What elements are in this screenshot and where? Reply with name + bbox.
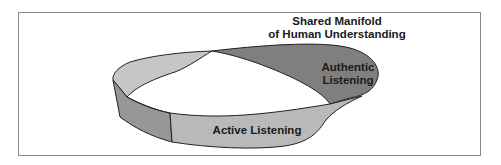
authentic-label-line-1: Authentic bbox=[316, 61, 380, 74]
authentic-label-line-2: Listening bbox=[316, 74, 380, 87]
back-band-left bbox=[113, 51, 212, 97]
title-line-2: of Human Understanding bbox=[262, 28, 412, 41]
title-line-1: Shared Manifold bbox=[262, 15, 412, 28]
figure-title: Shared Manifold of Human Understanding bbox=[262, 15, 412, 41]
mobius-strip-diagram bbox=[0, 0, 501, 165]
active-listening-region bbox=[170, 96, 362, 148]
active-listening-label: Active Listening bbox=[202, 124, 312, 137]
authentic-listening-label: Authentic Listening bbox=[316, 61, 380, 87]
